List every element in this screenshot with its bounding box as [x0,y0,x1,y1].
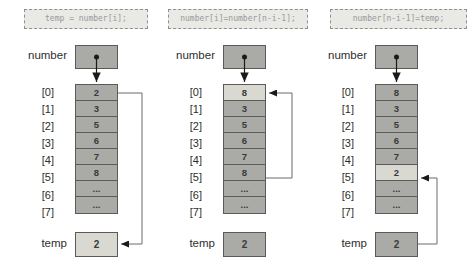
index-label: [2] [158,118,202,135]
index-label: [7] [158,204,202,221]
array-cell: 2 [76,85,117,101]
code-statement-1: temp = number[i]; [24,9,148,29]
array-cell: 7 [224,149,265,165]
index-label: [4] [0,152,54,169]
array-cell: ... [224,181,265,197]
index-label: [0] [158,84,202,101]
index-label: [3] [0,135,54,152]
index-label: [4] [158,152,202,169]
swap-diagram: temp = number[i]; number [0] [1] [2] [3]… [0,0,476,272]
array-cell: 5 [76,117,117,133]
array-cell: 8 [224,165,265,181]
array-cell: ... [224,197,265,213]
index-column: [0] [1] [2] [3] [4] [5] [6] [7] [0,84,54,221]
panel-2: number[i]=number[n-i-1]; number [0] [1] … [158,0,316,272]
array-cell: 3 [376,101,417,117]
index-label: [6] [0,187,54,204]
index-label: [4] [316,152,354,169]
array-cell: ... [376,181,417,197]
array-cell: 6 [376,133,417,149]
index-label: [0] [316,84,354,101]
array-cell: ... [76,181,117,197]
array-cell: 3 [76,101,117,117]
temp-variable-label: temp [316,237,367,249]
number-variable-label: number [316,49,367,61]
number-pointer-box [375,45,418,69]
array-cell: 7 [376,149,417,165]
array-cell: 6 [76,133,117,149]
number-pointer-box [75,45,118,69]
array-cell: 8 [224,85,265,101]
array-cell: ... [376,197,417,213]
temp-variable-label: temp [0,237,67,249]
index-label: [6] [158,187,202,204]
number-pointer-box [223,45,266,69]
array-cell: 7 [76,149,117,165]
array-cell: 8 [76,165,117,181]
array-cell: 2 [376,165,417,181]
index-label: [0] [0,84,54,101]
index-label: [5] [316,169,354,186]
temp-box: 2 [223,232,266,257]
array-cell: 6 [224,133,265,149]
index-column: [0] [1] [2] [3] [4] [5] [6] [7] [158,84,202,221]
number-array: 2 3 5 6 7 8 ... ... [75,84,118,214]
index-label: [5] [158,169,202,186]
index-label: [5] [0,169,54,186]
panel-1: temp = number[i]; number [0] [1] [2] [3]… [0,0,158,272]
index-label: [1] [158,101,202,118]
index-label: [7] [316,204,354,221]
array-cell: ... [76,197,117,213]
index-label: [2] [316,118,354,135]
number-variable-label: number [158,49,215,61]
panel-3: number[n-i-1]=temp; number [0] [1] [2] [… [316,0,476,272]
number-array: 8 3 5 6 7 2 ... ... [375,84,418,214]
index-label: [3] [316,135,354,152]
index-label: [1] [0,101,54,118]
index-label: [2] [0,118,54,135]
number-array: 8 3 5 6 7 8 ... ... [223,84,266,214]
index-label: [6] [316,187,354,204]
number-variable-label: number [0,49,67,61]
code-statement-3: number[n-i-1]=temp; [330,9,467,29]
index-label: [1] [316,101,354,118]
array-cell: 5 [376,117,417,133]
array-cell: 3 [224,101,265,117]
index-label: [3] [158,135,202,152]
array-cell: 5 [224,117,265,133]
index-label: [7] [0,204,54,221]
array-cell: 8 [376,85,417,101]
temp-box: 2 [75,232,118,257]
index-column: [0] [1] [2] [3] [4] [5] [6] [7] [316,84,354,221]
temp-variable-label: temp [158,237,215,249]
code-statement-2: number[i]=number[n-i-1]; [168,9,308,29]
temp-box: 2 [375,232,418,257]
